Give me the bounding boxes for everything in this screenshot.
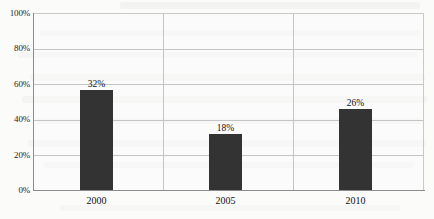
data-label-2005: 18% bbox=[204, 123, 248, 133]
y-axis-tick-label: 40% bbox=[0, 114, 30, 124]
bar-2005 bbox=[209, 134, 242, 190]
gridline-vertical bbox=[163, 14, 164, 191]
y-axis-tick-label: 20% bbox=[0, 150, 30, 160]
gridline-vertical bbox=[293, 14, 294, 191]
paper-bleed-artifact bbox=[120, 2, 420, 9]
y-axis-tick-label: 100% bbox=[0, 8, 30, 18]
x-axis-line bbox=[33, 190, 425, 191]
x-axis-label-2010: 2010 bbox=[321, 195, 391, 206]
bar-2000 bbox=[80, 90, 113, 190]
bar-2010 bbox=[339, 109, 372, 190]
gridline-horizontal bbox=[33, 49, 424, 50]
y-axis-tick-labels: 100% 80% 60% 40% 20% 0% bbox=[0, 13, 30, 190]
y-axis-tick-label: 80% bbox=[0, 43, 30, 53]
bar-chart-screenshot: 100% 80% 60% 40% 20% 0% 32% 18% 26% 2000… bbox=[0, 0, 434, 219]
data-label-2000: 32% bbox=[75, 79, 119, 89]
plot-area: 32% 18% 26% bbox=[33, 13, 424, 190]
y-axis-tick-label: 0% bbox=[0, 185, 30, 195]
y-axis-tick-label: 60% bbox=[0, 79, 30, 89]
x-axis-label-2005: 2005 bbox=[191, 195, 261, 206]
y-axis-line bbox=[33, 13, 34, 191]
data-label-2010: 26% bbox=[334, 98, 378, 108]
x-axis-label-2000: 2000 bbox=[62, 195, 132, 206]
